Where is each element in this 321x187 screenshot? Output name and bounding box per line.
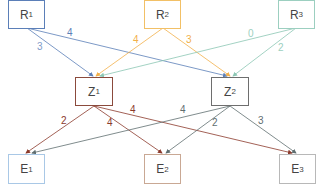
node-r3: R3 (278, 0, 315, 29)
node-r1: R1 (8, 0, 45, 29)
node-r2: R2 (144, 0, 181, 29)
weight-r2-z2: 3 (186, 35, 192, 45)
node-e1: E1 (8, 154, 45, 184)
weight-r1-z2: 4 (67, 28, 73, 38)
weight-z1-e3: 4 (130, 105, 136, 115)
node-label: R (20, 8, 29, 22)
node-label: Z (224, 85, 231, 99)
node-subscript: 1 (28, 165, 32, 174)
node-label: E (291, 162, 299, 176)
node-subscript: 2 (231, 87, 235, 96)
edge-z1-e3 (94, 106, 292, 153)
node-label: E (20, 162, 28, 176)
weight-r2-z1: 4 (133, 35, 139, 45)
node-label: R (290, 8, 299, 22)
weight-z1-e1: 2 (61, 116, 67, 126)
edge-z2-e2 (166, 106, 230, 153)
edge-z1-e2 (94, 106, 162, 153)
node-e2: E2 (144, 154, 181, 184)
edge-r3-z2 (233, 28, 296, 76)
node-label: E (156, 162, 164, 176)
weight-z2-e1: 4 (180, 105, 186, 115)
node-subscript: 2 (165, 10, 169, 19)
weight-z2-e3: 3 (258, 116, 264, 126)
weight-z2-e2: 2 (212, 118, 218, 128)
weight-r1-z1: 3 (37, 42, 43, 52)
weight-z1-e2: 4 (107, 118, 113, 128)
node-label: Z (88, 85, 95, 99)
node-z1: Z1 (75, 77, 113, 106)
weight-r3-z2: 2 (278, 43, 284, 53)
node-z2: Z2 (211, 77, 249, 106)
weight-r3-z1: 0 (248, 29, 254, 39)
node-e3: E3 (279, 154, 316, 184)
node-subscript: 3 (299, 165, 303, 174)
node-subscript: 3 (299, 10, 303, 19)
node-label: R (156, 8, 165, 22)
node-subscript: 1 (95, 87, 99, 96)
edge-r1-z1 (27, 28, 93, 76)
node-subscript: 2 (164, 165, 168, 174)
node-subscript: 1 (29, 10, 33, 19)
